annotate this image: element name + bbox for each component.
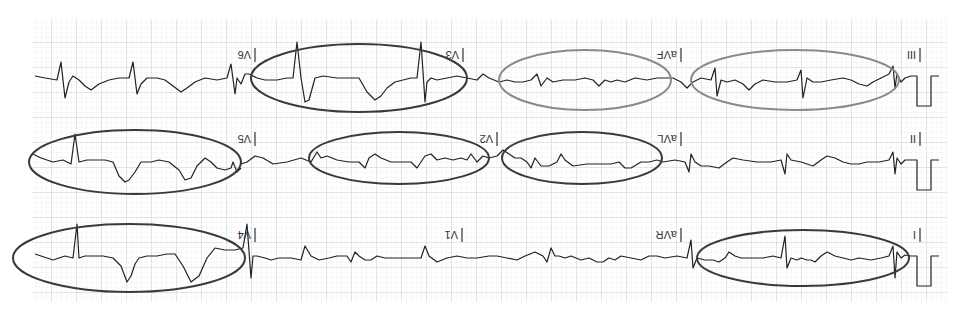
svg-text:I: I [913, 229, 916, 241]
svg-text:III: III [907, 49, 916, 61]
svg-text:V4: V4 [238, 229, 251, 241]
svg-text:V6: V6 [238, 49, 251, 61]
label-lead-aVF: aVF [657, 48, 681, 62]
svg-text:V3: V3 [446, 49, 459, 61]
svg-text:II: II [910, 133, 916, 145]
svg-text:V2: V2 [480, 133, 493, 145]
svg-text:V1: V1 [445, 229, 458, 241]
svg-text:aVR: aVR [656, 229, 677, 241]
ecg-figure: I aVR V1 V4 [0, 0, 977, 318]
svg-text:aVL: aVL [657, 133, 677, 145]
label-lead-aVR: aVR [656, 228, 681, 242]
svg-text:V5: V5 [238, 133, 251, 145]
label-lead-aVL: aVL [657, 132, 681, 146]
svg-text:aVF: aVF [657, 49, 677, 61]
